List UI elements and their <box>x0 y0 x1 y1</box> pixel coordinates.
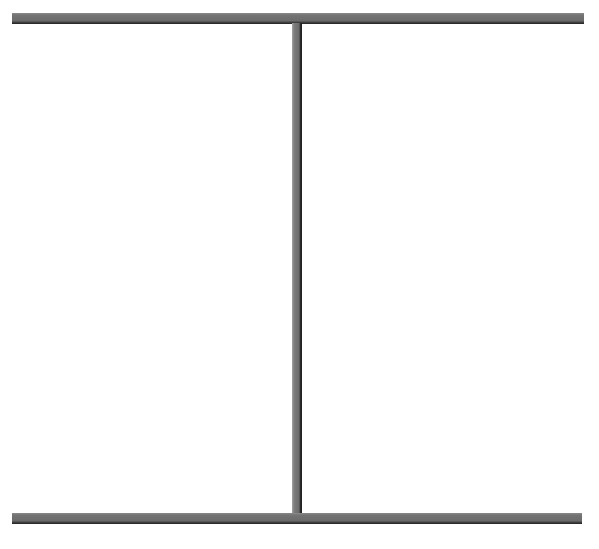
i-beam-diagram <box>0 0 599 549</box>
vertical-web-bar <box>292 23 302 514</box>
bottom-flange-bar <box>12 513 582 524</box>
